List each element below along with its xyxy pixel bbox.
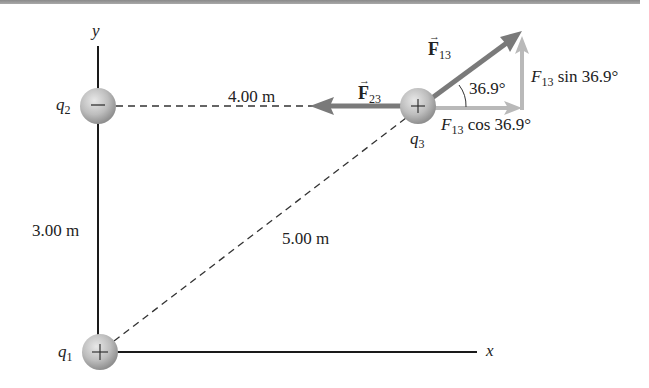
charge-label-q3: q3 xyxy=(410,130,425,150)
component-text: cos 36.9° xyxy=(463,115,531,134)
component-text: sin 36.9° xyxy=(553,67,618,86)
component-arrow-x xyxy=(432,101,522,115)
component-symbol: F xyxy=(531,67,541,86)
angle-label: 36.9° xyxy=(469,80,506,97)
x-axis-label: x xyxy=(486,342,494,359)
charge-symbol: q xyxy=(410,129,419,148)
distance-label-q1-q2: 3.00 m xyxy=(32,222,79,239)
charge-symbol: q xyxy=(58,342,67,361)
force-label-f23: →F23 xyxy=(358,84,381,105)
component-label-y: F13 sin 36.9° xyxy=(531,68,618,88)
charge-q1 xyxy=(82,334,118,370)
force-subscript: 13 xyxy=(439,48,451,62)
component-subscript: 13 xyxy=(541,75,553,89)
vector-arrow-icon: → xyxy=(429,31,440,42)
vector-arrow-icon: → xyxy=(359,75,370,86)
component-label-x: F13 cos 36.9° xyxy=(441,116,531,136)
distance-label-q2-q3: 4.00 m xyxy=(228,88,275,105)
angle-arc xyxy=(459,85,466,107)
charge-subscript: 2 xyxy=(65,103,71,117)
component-subscript: 13 xyxy=(451,123,463,137)
charge-label-q1: q1 xyxy=(58,343,73,363)
charge-subscript: 1 xyxy=(67,350,73,364)
charge-subscript: 3 xyxy=(419,137,425,151)
distance-label-q1-q3: 5.00 m xyxy=(282,230,329,247)
force-arrow-f23 xyxy=(310,97,402,115)
charge-symbol: q xyxy=(56,95,65,114)
diagram-canvas xyxy=(0,0,649,388)
charge-label-q2: q2 xyxy=(56,96,71,116)
force-symbol: F xyxy=(428,39,439,59)
force-label-f13: →F13 xyxy=(428,40,451,61)
charge-q2 xyxy=(80,88,116,124)
force-symbol: F xyxy=(358,83,369,103)
distance-line-q1-q3 xyxy=(114,118,406,341)
component-arrow-y xyxy=(515,36,529,110)
component-symbol: F xyxy=(441,115,451,134)
y-axis-label: y xyxy=(92,22,100,39)
force-subscript: 23 xyxy=(369,92,381,106)
charge-q3 xyxy=(400,88,436,124)
